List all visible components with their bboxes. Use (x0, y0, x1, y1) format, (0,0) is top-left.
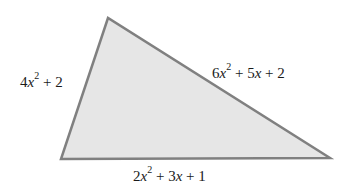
triangle-figure (0, 0, 339, 187)
right-side-label: 6x2 + 5x + 2 (212, 66, 285, 81)
left-side-label: 4x2 + 2 (20, 75, 63, 90)
triangle (61, 18, 330, 159)
bottom-side-label: 2x2 + 3x + 1 (133, 169, 206, 184)
